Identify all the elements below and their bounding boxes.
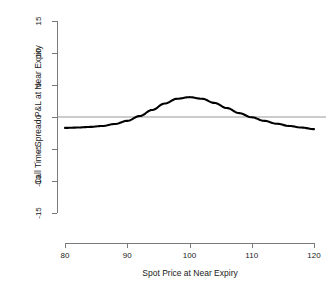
x-tick-label: 110 bbox=[237, 251, 267, 260]
y-axis-title: Call Time Spread P&L at Near Expiry bbox=[33, 15, 43, 215]
y-tick-5 bbox=[52, 85, 57, 86]
x-tick-label: 90 bbox=[112, 251, 142, 260]
x-tick-80 bbox=[65, 243, 66, 248]
chart-plot-area: 151050-5-10-15 Call Time Spread P&L at N… bbox=[0, 0, 334, 289]
x-tick-110 bbox=[252, 243, 253, 248]
x-tick-90 bbox=[127, 243, 128, 248]
x-axis-title: Spot Price at Near Expiry bbox=[0, 268, 334, 278]
chart-canvas bbox=[0, 0, 334, 289]
y-tick-neg5 bbox=[52, 149, 57, 150]
x-tick-120 bbox=[314, 243, 315, 248]
y-tick-10 bbox=[52, 53, 57, 54]
x-tick-label: 80 bbox=[50, 251, 80, 260]
x-tick-label: 100 bbox=[175, 251, 205, 260]
y-axis-line bbox=[57, 21, 58, 213]
x-tick-label: 120 bbox=[299, 251, 329, 260]
y-tick-0 bbox=[52, 117, 57, 118]
y-tick-neg15 bbox=[52, 213, 57, 214]
y-tick-15 bbox=[52, 21, 57, 22]
x-tick-100 bbox=[190, 243, 191, 248]
pnl-curve-line bbox=[65, 97, 314, 129]
y-tick-neg10 bbox=[52, 181, 57, 182]
